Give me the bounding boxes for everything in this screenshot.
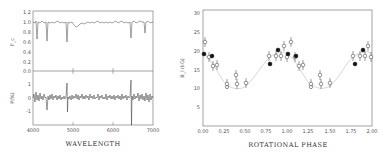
svg-text:1.50: 1.50 xyxy=(324,128,335,134)
x-tick-5000: 5000 xyxy=(67,127,80,133)
top-y-ticks: 1.2 1.0 0.8 0.6 0.4 0.2 0.0 xyxy=(23,9,31,74)
svg-text:20: 20 xyxy=(194,48,200,54)
right-figure: 30 25 20 15 10 5 0.00 0.25 0.50 0.75 1.0… xyxy=(179,10,378,149)
svg-text:-1: -1 xyxy=(26,108,31,114)
right-y-ticks: 30 25 20 15 10 5 xyxy=(194,10,200,110)
svg-text:25: 25 xyxy=(194,29,200,35)
right-x-ticks: 0.00 0.25 0.50 0.75 1.00 1.25 1.50 1.75 … xyxy=(197,128,377,134)
left-frame xyxy=(33,11,153,125)
svg-text:15: 15 xyxy=(194,67,200,73)
svg-text:1.00: 1.00 xyxy=(281,128,292,134)
left-x-axis-label: WAVELENGTH xyxy=(65,140,120,148)
polarization-line xyxy=(33,80,153,125)
svg-text:5: 5 xyxy=(197,104,200,110)
svg-text:30: 30 xyxy=(194,10,200,16)
svg-text:0.00: 0.00 xyxy=(197,128,208,134)
svg-text:0.50: 0.50 xyxy=(239,128,250,134)
x-tick-7000: 7000 xyxy=(147,127,160,133)
flux-spectrum-line xyxy=(33,21,153,42)
svg-text:0.8: 0.8 xyxy=(23,29,31,35)
bottom-y-axis-label: P(%) xyxy=(9,92,15,104)
svg-text:1.0: 1.0 xyxy=(23,19,31,25)
svg-text:1: 1 xyxy=(28,81,31,87)
svg-text:10: 10 xyxy=(194,85,200,91)
left-figure: 4000 5000 6000 7000 1.2 1.0 0.8 0.6 0.4 … xyxy=(9,9,159,148)
open-circle-points xyxy=(203,37,373,89)
svg-text:1.75: 1.75 xyxy=(345,128,356,134)
svg-text:0.0: 0.0 xyxy=(23,68,31,74)
svg-text:0.4: 0.4 xyxy=(23,49,31,55)
svg-text:2.00: 2.00 xyxy=(366,128,377,134)
right-frame xyxy=(203,10,372,126)
filled-circle-points xyxy=(202,48,365,66)
svg-text:1.2: 1.2 xyxy=(23,9,31,15)
right-y-axis-label: B_l (kG) xyxy=(179,58,186,78)
bottom-y-ticks: 1 0 -1 xyxy=(26,81,31,114)
svg-text:0.75: 0.75 xyxy=(260,128,271,134)
svg-text:1.25: 1.25 xyxy=(302,128,313,134)
top-y-axis-label: F_c xyxy=(9,38,16,46)
svg-text:0.6: 0.6 xyxy=(23,39,31,45)
svg-text:0.2: 0.2 xyxy=(23,59,31,65)
right-x-axis-label: ROTATIONAL PHASE xyxy=(248,141,327,149)
x-tick-4000: 4000 xyxy=(27,127,40,133)
svg-text:0: 0 xyxy=(28,95,31,101)
figure-canvas: 4000 5000 6000 7000 1.2 1.0 0.8 0.6 0.4 … xyxy=(0,0,386,156)
svg-text:0.25: 0.25 xyxy=(218,128,229,134)
left-x-ticks xyxy=(73,68,113,125)
x-tick-6000: 6000 xyxy=(107,127,120,133)
